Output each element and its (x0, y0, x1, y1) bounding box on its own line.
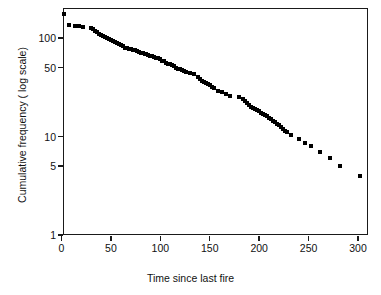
x-axis-tick-label: 150 (190, 243, 230, 254)
y-axis-tick-label: 50 (44, 63, 56, 74)
y-axis-tick-mark (58, 136, 63, 137)
x-axis-tick-label: 250 (289, 243, 329, 254)
x-axis-tick-mark (160, 236, 161, 241)
y-axis-tick-mark (58, 37, 63, 38)
data-point (318, 150, 322, 154)
data-point (81, 25, 85, 29)
y-axis-label: Cumulative frequency ( log scale) (16, 47, 28, 203)
data-point (358, 174, 362, 178)
x-axis-tick-mark (357, 236, 358, 241)
data-point (228, 94, 232, 98)
x-axis-tick-mark (258, 236, 259, 241)
x-axis-tick-mark (308, 236, 309, 241)
y-axis-tick-label: 5 (50, 161, 56, 172)
data-point (303, 141, 307, 145)
y-axis-tick-label: 100 (38, 33, 56, 44)
y-axis-tick-label: 10 (44, 132, 56, 143)
x-axis-tick-label: 200 (239, 243, 279, 254)
data-point (309, 144, 313, 148)
data-point (289, 133, 293, 137)
x-axis-tick-label: 50 (91, 243, 131, 254)
x-axis-tick-label: 300 (338, 243, 378, 254)
figure-scatter-plot: 151050100050100150200250300 Time since l… (0, 0, 381, 295)
data-point (328, 156, 332, 160)
y-axis-tick-mark (58, 165, 63, 166)
x-axis-tick-mark (110, 236, 111, 241)
data-point (62, 12, 66, 16)
x-axis-tick-mark (209, 236, 210, 241)
data-point (297, 137, 301, 141)
data-point (338, 164, 342, 168)
y-axis-tick-mark (58, 67, 63, 68)
y-axis-tick-label: 1 (50, 230, 56, 241)
y-axis-label-container: Cumulative frequency ( log scale) (12, 10, 30, 240)
data-point (67, 23, 71, 27)
x-axis-tick-label: 100 (140, 243, 180, 254)
x-axis-tick-mark (61, 236, 62, 241)
x-axis-tick-label: 0 (42, 243, 82, 254)
x-axis-label: Time since last fire (0, 272, 381, 284)
